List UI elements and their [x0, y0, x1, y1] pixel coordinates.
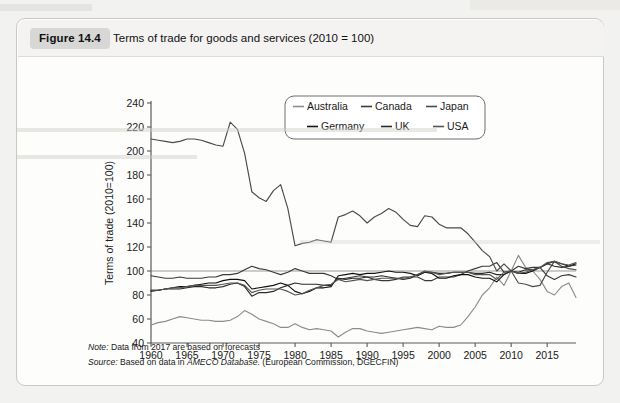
y-tick-label: 120	[126, 241, 144, 253]
y-tick-label: 220	[126, 121, 144, 133]
source-body-a: Based on data in	[118, 357, 187, 367]
chart-plot-area: 4060801001201401601802002202401960196519…	[18, 56, 604, 386]
page-artifact-top-left	[0, 4, 92, 11]
legend-label-uk: UK	[395, 120, 410, 132]
source-database-name: AMECO Database.	[187, 357, 260, 367]
y-tick-label: 80	[132, 289, 144, 301]
figure-number-badge: Figure 14.4	[30, 28, 110, 49]
chart-legend: AustraliaCanadaJapanGermanyUKUSA	[285, 96, 485, 139]
series-line-usa	[151, 261, 576, 295]
x-tick-label: 2015	[536, 349, 560, 361]
y-tick-label: 200	[126, 145, 144, 157]
x-tick-label: 2010	[499, 349, 523, 361]
legend-label-germany: Germany	[321, 120, 365, 132]
terms-of-trade-line-chart: 4060801001201401601802002202401960196519…	[18, 56, 604, 386]
legend-label-usa: USA	[447, 120, 469, 132]
series-line-australia	[151, 255, 576, 337]
legend-label-australia: Australia	[307, 100, 348, 112]
y-tick-label: 160	[126, 193, 144, 205]
x-tick-label: 2005	[463, 349, 487, 361]
figure-caption-bar: Figure 14.4 Terms of trade for goods and…	[18, 20, 604, 57]
page-artifact-top-right	[470, 0, 620, 10]
y-tick-label: 140	[126, 217, 144, 229]
figure-source: Source: Based on data in AMECO Database.…	[88, 357, 398, 367]
y-tick-label: 180	[126, 169, 144, 181]
page-root: Figure 14.4 Terms of trade for goods and…	[0, 0, 620, 403]
source-body-b: (European Commission, DGECFIN)	[260, 357, 399, 367]
figure-note: Note: Data from 2017 are based on foreca…	[88, 342, 260, 352]
figure-card: Figure 14.4 Terms of trade for goods and…	[16, 18, 604, 386]
series-line-japan	[151, 122, 576, 286]
x-tick-label: 2000	[427, 349, 451, 361]
y-axis-title: Terms of trade (2010=100)	[103, 161, 115, 285]
note-body: Data from 2017 are based on forecasts	[109, 342, 260, 352]
source-label: Source:	[88, 357, 118, 367]
note-label: Note:	[88, 342, 109, 352]
y-tick-label: 240	[126, 97, 144, 109]
y-tick-label: 100	[126, 265, 144, 277]
figure-caption-text: Terms of trade for goods and services (2…	[113, 28, 374, 49]
legend-label-canada: Canada	[375, 100, 412, 112]
y-tick-label: 60	[132, 313, 144, 325]
legend-label-japan: Japan	[440, 100, 469, 112]
